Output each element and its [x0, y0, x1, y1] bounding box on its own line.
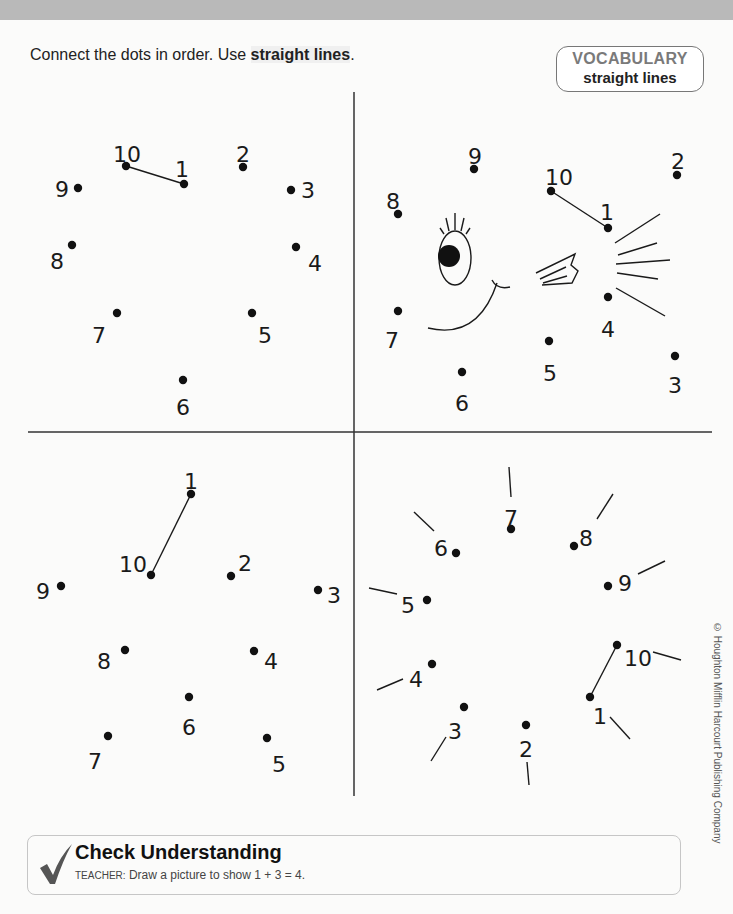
dot-label-5: 5 — [258, 323, 272, 348]
dot-to-dot-sheet[interactable]: 1234567891012345678910123456789101234567… — [0, 0, 733, 914]
sun-ray — [653, 652, 681, 660]
dot-label-7: 7 — [92, 323, 106, 348]
copyright-notice: © Houghton Mifflin Harcourt Publishing C… — [712, 622, 723, 843]
dot-10[interactable] — [147, 571, 155, 579]
tail-ray — [616, 260, 670, 264]
dot-1[interactable] — [586, 693, 594, 701]
fin-stripe — [543, 276, 567, 283]
dot-label-7: 7 — [385, 328, 399, 353]
sun-ray — [597, 494, 613, 519]
tail-ray — [618, 243, 657, 255]
dot-label-10: 10 — [624, 646, 652, 671]
dot-label-8: 8 — [97, 649, 111, 674]
dot-5[interactable] — [423, 596, 431, 604]
dot-4[interactable] — [250, 647, 258, 655]
tail-ray — [615, 214, 660, 243]
dot-2[interactable] — [522, 721, 530, 729]
example-connection-line — [590, 645, 617, 697]
dot-label-5: 5 — [401, 593, 415, 618]
dot-8[interactable] — [68, 241, 76, 249]
dot-label-8: 8 — [579, 526, 593, 551]
dot-4[interactable] — [604, 293, 612, 301]
puzzle-bottom-right-sun[interactable]: 12345678910 — [401, 506, 652, 762]
dot-3[interactable] — [671, 352, 679, 360]
sun-ray — [377, 679, 403, 690]
sun-ray — [431, 737, 446, 761]
puzzle-bottom-left-star[interactable]: 12345678910 — [36, 469, 341, 777]
dot-label-4: 4 — [264, 649, 278, 674]
fish-face — [428, 213, 670, 330]
puzzle-layer[interactable]: 1234567891012345678910123456789101234567… — [36, 142, 685, 777]
dot-6[interactable] — [185, 693, 193, 701]
checkmark-icon — [38, 842, 74, 886]
check-understanding-prompt: TEACHER: Draw a picture to show 1 + 3 = … — [75, 868, 305, 882]
dot-8[interactable] — [121, 646, 129, 654]
dot-label-2: 2 — [671, 149, 685, 174]
dot-label-4: 4 — [409, 667, 423, 692]
fish-smile-icon — [428, 283, 497, 330]
dot-label-10: 10 — [119, 552, 147, 577]
dot-8[interactable] — [570, 542, 578, 550]
dot-label-10: 10 — [545, 165, 573, 190]
dot-5[interactable] — [248, 309, 256, 317]
check-understanding-title: Check Understanding — [75, 841, 282, 864]
sun-ray — [527, 762, 529, 785]
dot-2[interactable] — [227, 572, 235, 580]
teacher-label: TEACHER: — [75, 870, 126, 881]
dot-label-1: 1 — [600, 200, 614, 225]
fish-smile-dimple — [492, 280, 510, 288]
dot-10[interactable] — [613, 641, 621, 649]
tail-ray — [617, 273, 658, 279]
puzzle-top-left-circle[interactable]: 12345678910 — [50, 142, 322, 420]
dot-1[interactable] — [604, 224, 612, 232]
dot-4[interactable] — [292, 243, 300, 251]
fish-pupil-icon — [438, 245, 460, 267]
dot-3[interactable] — [287, 186, 295, 194]
sun-ray — [509, 467, 511, 497]
eyelash-icon — [461, 218, 464, 231]
dot-label-9: 9 — [468, 144, 482, 169]
dot-7[interactable] — [104, 732, 112, 740]
dot-label-6: 6 — [182, 715, 196, 740]
dot-label-5: 5 — [543, 361, 557, 386]
dot-label-3: 3 — [301, 178, 315, 203]
dot-label-7: 7 — [504, 506, 518, 531]
dot-3[interactable] — [314, 586, 322, 594]
eyelash-icon — [446, 218, 449, 231]
dot-label-6: 6 — [455, 391, 469, 416]
tail-ray — [616, 288, 665, 316]
sun-ray — [369, 588, 397, 594]
dot-6[interactable] — [179, 376, 187, 384]
dot-label-1: 1 — [593, 704, 607, 729]
dot-5[interactable] — [545, 337, 553, 345]
fish-fin-icon — [536, 254, 578, 285]
dot-label-5: 5 — [272, 752, 286, 777]
dot-9[interactable] — [74, 184, 82, 192]
sun-ray — [638, 561, 665, 574]
dot-label-8: 8 — [50, 249, 64, 274]
dot-7[interactable] — [394, 307, 402, 315]
dot-9[interactable] — [604, 582, 612, 590]
dot-label-9: 9 — [36, 579, 50, 604]
sun-ray — [610, 717, 630, 739]
dot-label-9: 9 — [618, 571, 632, 596]
dot-6[interactable] — [458, 368, 466, 376]
check-understanding-box: Check Understanding TEACHER: Draw a pict… — [27, 835, 681, 895]
dot-4[interactable] — [428, 660, 436, 668]
puzzle-top-right-fish[interactable]: 12345678910 — [385, 144, 685, 416]
dot-9[interactable] — [57, 582, 65, 590]
prompt-text: Draw a picture to show 1 + 3 = 4. — [126, 868, 305, 882]
dot-5[interactable] — [263, 734, 271, 742]
dot-3[interactable] — [460, 703, 468, 711]
dot-label-4: 4 — [601, 317, 615, 342]
dot-7[interactable] — [113, 309, 121, 317]
dot-label-4: 4 — [308, 251, 322, 276]
dot-label-6: 6 — [434, 536, 448, 561]
dot-label-2: 2 — [519, 737, 533, 762]
dot-label-3: 3 — [448, 719, 462, 744]
eyelash-icon — [466, 228, 470, 234]
dot-label-10: 10 — [113, 142, 141, 167]
dot-label-8: 8 — [386, 189, 400, 214]
dot-6[interactable] — [452, 549, 460, 557]
dot-label-6: 6 — [176, 395, 190, 420]
